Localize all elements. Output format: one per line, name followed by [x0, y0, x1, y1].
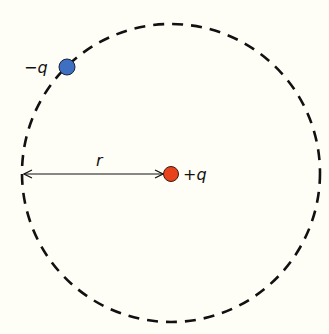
- radius-label: r: [96, 151, 104, 170]
- positive-charge-label: +q: [183, 165, 207, 184]
- negative-charge-label: −q: [24, 58, 48, 77]
- negative-charge: [59, 59, 75, 75]
- coulomb-orbit-diagram: r +q −q: [0, 0, 329, 334]
- positive-charge: [164, 167, 179, 182]
